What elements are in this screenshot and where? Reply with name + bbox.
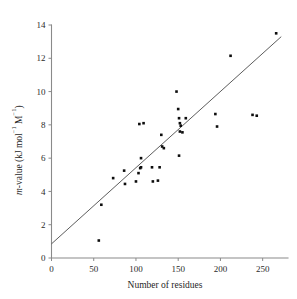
chart-canvas: 050100150200250 02468101214 Number of re… bbox=[0, 0, 297, 299]
x-tick-label: 100 bbox=[129, 264, 143, 274]
data-point bbox=[138, 123, 141, 126]
x-tick-label: 50 bbox=[89, 264, 99, 274]
data-point bbox=[216, 125, 219, 128]
data-point bbox=[251, 114, 254, 117]
data-point bbox=[163, 147, 166, 150]
scatter-plot-figure: 050100150200250 02468101214 Number of re… bbox=[0, 0, 297, 299]
x-tick-label: 200 bbox=[214, 264, 228, 274]
data-point bbox=[181, 131, 184, 134]
data-point bbox=[255, 114, 258, 117]
data-point bbox=[123, 169, 126, 172]
x-tick-label: 250 bbox=[256, 264, 270, 274]
data-point bbox=[137, 172, 140, 175]
data-point bbox=[158, 166, 161, 169]
y-tick-label: 10 bbox=[37, 87, 47, 97]
x-axis-title: Number of residues bbox=[128, 280, 203, 290]
data-point bbox=[124, 183, 127, 186]
y-tick-label: 12 bbox=[37, 53, 46, 63]
x-tick-label: 150 bbox=[171, 264, 185, 274]
data-point bbox=[229, 54, 232, 57]
data-point bbox=[160, 134, 163, 137]
y-tick-label: 0 bbox=[41, 253, 46, 263]
y-axis-title-close: ) bbox=[14, 105, 25, 108]
data-point bbox=[157, 179, 160, 182]
data-point bbox=[140, 157, 143, 160]
data-point bbox=[142, 122, 145, 125]
data-point bbox=[179, 122, 182, 125]
y-axis-title-sup-2: −1 bbox=[10, 109, 17, 116]
y-axis-title-sup-1: −1 bbox=[10, 126, 17, 133]
y-axis-title-rest: -value (kJ mol bbox=[14, 133, 25, 188]
y-tick-label: 8 bbox=[41, 120, 46, 130]
y-tick-label: 6 bbox=[41, 153, 46, 163]
x-tick-label: 0 bbox=[49, 264, 54, 274]
y-tick-label: 14 bbox=[37, 20, 47, 30]
y-tick-label: 4 bbox=[41, 187, 46, 197]
data-point bbox=[140, 166, 143, 169]
y-axis-title-mid: M bbox=[14, 115, 24, 126]
data-point bbox=[184, 117, 187, 120]
y-tick-label: 2 bbox=[41, 220, 46, 230]
data-point bbox=[179, 130, 182, 133]
data-point bbox=[214, 113, 217, 116]
data-point bbox=[178, 154, 181, 157]
data-point bbox=[179, 124, 182, 127]
data-point bbox=[275, 32, 278, 35]
data-point bbox=[135, 180, 138, 183]
data-point bbox=[175, 90, 178, 93]
data-point bbox=[178, 117, 181, 120]
data-point bbox=[112, 177, 115, 180]
data-point bbox=[177, 108, 180, 111]
data-point bbox=[100, 203, 103, 206]
data-point bbox=[151, 166, 154, 169]
data-point bbox=[98, 239, 101, 242]
data-point bbox=[152, 180, 155, 183]
